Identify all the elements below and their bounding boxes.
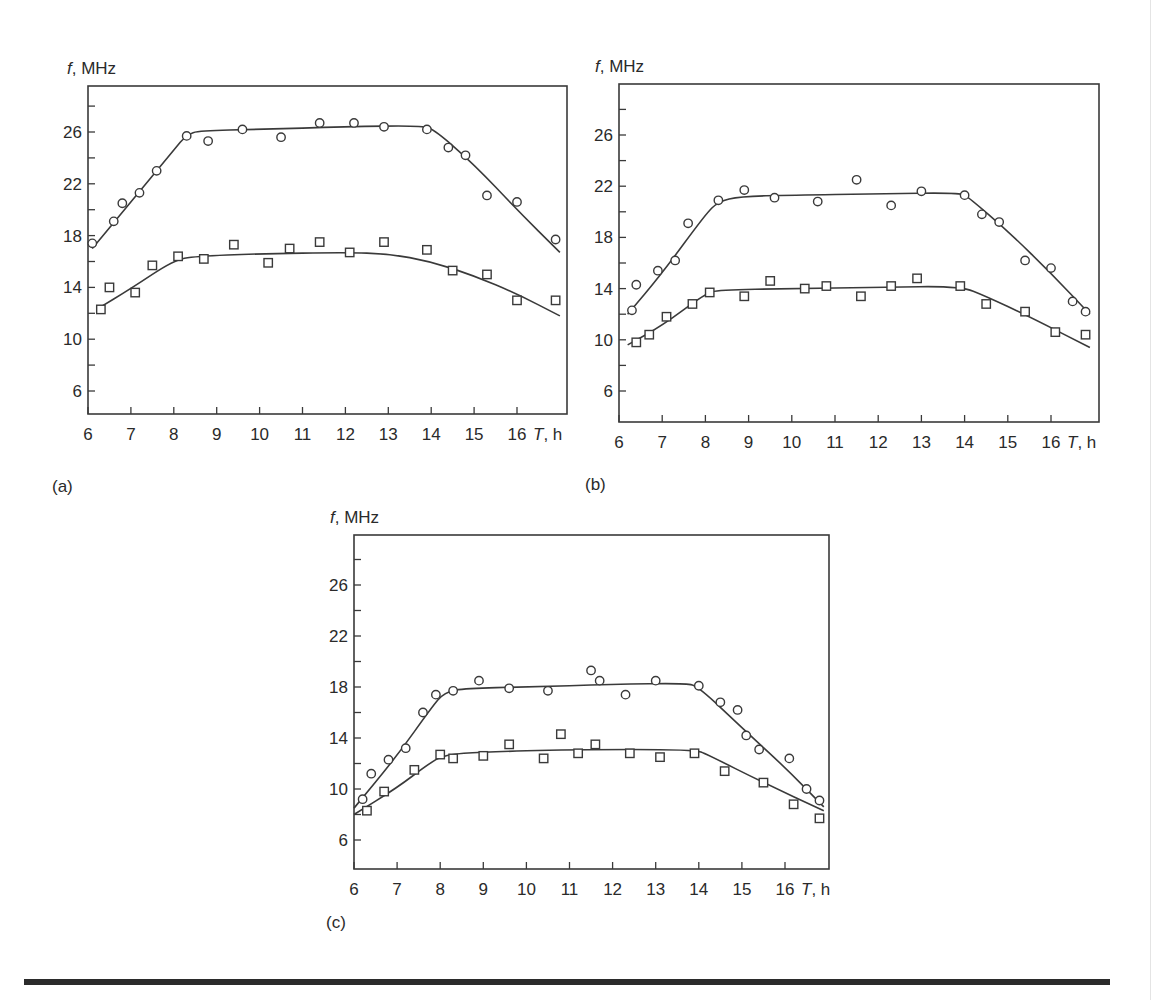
x-axis-label: T, h xyxy=(533,425,562,444)
square-marker xyxy=(591,740,599,748)
circle-marker xyxy=(742,731,750,739)
circle-marker xyxy=(714,196,722,204)
square-marker xyxy=(285,244,293,252)
square-marker xyxy=(822,282,830,290)
y-tick-label: 26 xyxy=(329,576,348,595)
y-tick-label: 18 xyxy=(329,678,348,697)
square-marker xyxy=(706,288,714,296)
x-tick-label: 10 xyxy=(250,425,269,444)
circle-marker xyxy=(802,785,810,793)
circle-marker xyxy=(423,125,431,133)
circle-marker xyxy=(814,197,822,205)
x-tick-label: 9 xyxy=(479,880,488,899)
circle-marker xyxy=(852,176,860,184)
square-marker xyxy=(740,292,748,300)
square-marker xyxy=(632,338,640,346)
circle-marker xyxy=(238,125,246,133)
square-marker xyxy=(1021,307,1029,315)
x-tick-label: 12 xyxy=(336,425,355,444)
x-tick-label: 15 xyxy=(465,425,484,444)
x-tick-label: 6 xyxy=(349,880,358,899)
square-marker xyxy=(1051,328,1059,336)
circle-marker xyxy=(785,754,793,762)
y-tick-label: 6 xyxy=(73,382,82,401)
page-edge xyxy=(1150,0,1151,1000)
circle-marker xyxy=(684,219,692,227)
square-marker xyxy=(789,800,797,808)
circle-marker xyxy=(815,796,823,804)
circle-marker xyxy=(152,167,160,175)
panel-label: (b) xyxy=(585,475,606,494)
square-marker xyxy=(230,240,238,248)
y-tick-label: 10 xyxy=(329,780,348,799)
x-tick-label: 11 xyxy=(826,433,844,452)
circle-marker xyxy=(654,266,662,274)
circle-marker xyxy=(505,684,513,692)
x-tick-label: 8 xyxy=(435,880,444,899)
square-marker xyxy=(436,750,444,758)
circle-marker xyxy=(755,745,763,753)
x-tick-label: 9 xyxy=(744,433,753,452)
x-tick-label: 14 xyxy=(955,433,974,452)
square-marker xyxy=(174,252,182,260)
circle-marker xyxy=(1047,264,1055,272)
circle-marker xyxy=(995,218,1003,226)
circle-marker xyxy=(1021,256,1029,264)
y-tick-label: 22 xyxy=(594,177,613,196)
y-tick-label: 26 xyxy=(594,126,613,145)
x-tick-label: 13 xyxy=(379,425,398,444)
x-tick-label: 6 xyxy=(614,433,623,452)
square-marker xyxy=(815,814,823,822)
y-tick-label: 6 xyxy=(339,831,348,850)
circle-marker xyxy=(350,119,358,127)
x-tick-label: 7 xyxy=(392,880,401,899)
circle-marker xyxy=(432,690,440,698)
square-marker xyxy=(662,313,670,321)
circle-marker xyxy=(887,201,895,209)
circle-marker xyxy=(367,770,375,778)
circle-marker xyxy=(513,198,521,206)
circle-marker xyxy=(652,676,660,684)
square-marker xyxy=(688,300,696,308)
x-axis-label: T, h xyxy=(1067,433,1096,452)
circle-marker xyxy=(632,281,640,289)
x-tick-label: 11 xyxy=(561,880,579,899)
x-tick-label: 16 xyxy=(508,425,527,444)
x-tick-label: 8 xyxy=(701,433,710,452)
circle-marker xyxy=(1081,307,1089,315)
circle-marker xyxy=(595,676,603,684)
x-tick-label: 13 xyxy=(646,880,665,899)
x-tick-label: 13 xyxy=(912,433,931,452)
circle-marker xyxy=(449,687,457,695)
square-marker xyxy=(982,300,990,308)
square-marker xyxy=(380,238,388,246)
x-tick-label: 8 xyxy=(169,425,178,444)
square-marker xyxy=(449,754,457,762)
square-marker xyxy=(423,246,431,254)
plot-frame xyxy=(88,86,567,414)
circle-marker xyxy=(110,217,118,225)
square-marker xyxy=(557,730,565,738)
square-marker xyxy=(131,288,139,296)
y-tick-label: 14 xyxy=(63,278,82,297)
square-marker xyxy=(513,296,521,304)
square-marker xyxy=(645,330,653,338)
circle-marker xyxy=(917,187,925,195)
x-tick-label: 16 xyxy=(776,880,795,899)
circle-marker xyxy=(695,682,703,690)
square-marker xyxy=(913,274,921,282)
circle-marker xyxy=(475,676,483,684)
square-marker xyxy=(1081,330,1089,338)
square-marker xyxy=(720,767,728,775)
x-tick-label: 7 xyxy=(126,425,135,444)
square-marker xyxy=(315,238,323,246)
x-tick-label: 11 xyxy=(294,425,312,444)
circle-marker xyxy=(204,137,212,145)
circle-marker xyxy=(483,191,491,199)
square-marker xyxy=(200,255,208,263)
plot-frame xyxy=(354,535,829,869)
y-tick-label: 14 xyxy=(329,729,348,748)
y-tick-label: 26 xyxy=(63,123,82,142)
circle-marker xyxy=(544,687,552,695)
circle-marker xyxy=(461,151,469,159)
